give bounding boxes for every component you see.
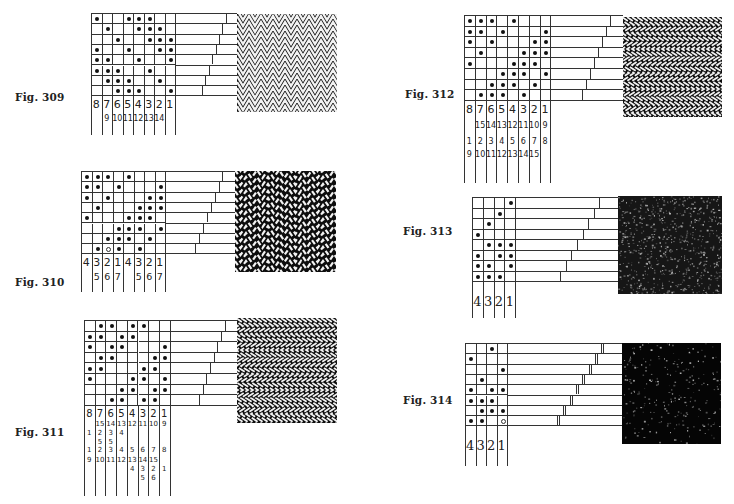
filled-dot — [95, 69, 99, 73]
harness-line — [165, 202, 235, 203]
harness-line — [507, 395, 622, 396]
harness-tick — [570, 395, 571, 405]
threading-number: 4 — [465, 439, 476, 452]
grid-cell — [92, 45, 103, 55]
grid-cell — [85, 332, 96, 343]
filled-dot — [490, 19, 494, 23]
grid-cell — [139, 353, 150, 364]
harness-line — [175, 65, 237, 66]
filled-dot — [158, 79, 162, 83]
threading-number: 1 — [155, 257, 166, 268]
filled-dot — [509, 254, 513, 258]
filled-dot — [95, 58, 99, 62]
grid-cell — [85, 342, 96, 353]
threading-number: 5 — [95, 439, 106, 446]
filled-dot — [169, 48, 173, 52]
harness-line — [165, 243, 235, 244]
harness-line — [165, 212, 235, 213]
filled-dot — [544, 72, 548, 76]
threading-number: 3 — [144, 99, 155, 110]
filled-dot — [476, 254, 480, 258]
filled-dot — [509, 243, 513, 247]
threading-number: 6 — [112, 99, 123, 110]
harness-tick — [563, 405, 564, 415]
filled-dot — [490, 40, 494, 44]
threading-number: 5 — [507, 138, 518, 146]
threading-number: 10 — [529, 122, 540, 130]
threading-number: 3 — [486, 138, 497, 146]
grid-cell — [96, 342, 107, 353]
filled-dot — [469, 388, 473, 392]
harness-line — [550, 89, 623, 90]
grid-cell — [124, 224, 135, 234]
grid-cell — [149, 374, 160, 385]
grid-cell — [124, 24, 135, 34]
grid-cell — [114, 182, 125, 192]
filled-dot — [490, 347, 494, 351]
threading-number: 6 — [102, 272, 113, 282]
filled-dot — [522, 93, 526, 97]
filled-dot — [469, 399, 473, 403]
filled-dot — [127, 237, 131, 241]
filled-dot — [522, 72, 526, 76]
figure-label: Fig. 311 — [15, 426, 65, 438]
grid-cell — [117, 353, 128, 364]
harness-line — [175, 54, 237, 55]
threading-number: 3 — [138, 466, 149, 473]
harness-line — [515, 260, 618, 261]
filled-dot — [501, 388, 505, 392]
filled-dot — [148, 216, 152, 220]
threading-number: 3 — [476, 439, 487, 452]
threading-number: 7 — [529, 138, 540, 146]
threading-number: 5 — [92, 272, 103, 282]
filled-dot — [96, 206, 100, 210]
grid-cell — [508, 80, 519, 91]
numbering-column-line — [170, 405, 171, 496]
harness-line — [507, 415, 622, 416]
harness-line — [165, 192, 235, 193]
grid-cell — [82, 203, 93, 213]
grid-cell — [473, 198, 484, 209]
grid-cell — [477, 354, 488, 364]
filled-dot — [158, 27, 162, 31]
grid-cell — [495, 219, 506, 230]
filled-dot — [142, 367, 146, 371]
grid-cell — [103, 193, 114, 203]
threading-number: 6 — [138, 447, 149, 454]
filled-dot — [85, 196, 89, 200]
grid-cell — [114, 213, 125, 223]
harness-tick — [214, 352, 215, 363]
grid-cell — [145, 234, 156, 244]
grid-cell — [508, 16, 519, 27]
harness-tick — [206, 373, 207, 384]
harness-tick — [219, 34, 220, 44]
threading-number: 12 — [507, 122, 518, 130]
harness-tick — [571, 250, 572, 261]
threading-number: 8 — [464, 104, 475, 115]
grid-cell — [82, 172, 93, 182]
harness-tick — [606, 26, 607, 37]
harness-tick — [597, 353, 598, 363]
grid-cell — [530, 37, 541, 48]
harness-line — [170, 352, 237, 353]
filled-dot — [99, 335, 103, 339]
grid-cell — [124, 172, 135, 182]
threading-number: 3 — [134, 257, 145, 268]
grid-cell — [487, 80, 498, 91]
harness-tick — [601, 343, 602, 353]
threading-number: 13 — [507, 151, 518, 159]
threading-number: 1 — [497, 439, 508, 452]
grid-cell — [508, 58, 519, 69]
figure-label: Fig. 314 — [403, 394, 453, 406]
filled-dot — [476, 233, 480, 237]
filled-dot — [148, 27, 152, 31]
grid-cell — [484, 251, 495, 262]
grid-cell — [93, 172, 104, 182]
threading-number: 2 — [529, 104, 540, 115]
threading-number: 2 — [154, 99, 165, 110]
grid-cell — [82, 182, 93, 192]
threading-number: 2 — [144, 257, 155, 268]
threading-number: 13 — [144, 115, 155, 123]
filled-dot — [512, 19, 516, 23]
filled-dot — [148, 237, 152, 241]
